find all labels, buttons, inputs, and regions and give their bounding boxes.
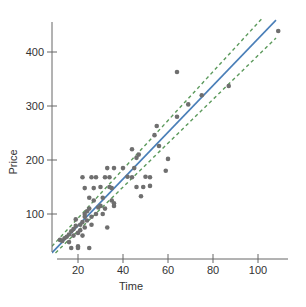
y-tick-label: 300: [26, 100, 44, 112]
data-point: [105, 166, 110, 171]
data-point: [76, 246, 81, 251]
data-point: [87, 196, 92, 201]
scatter-chart: 100200300400 20406080100 Time Price: [0, 0, 306, 307]
data-point: [103, 206, 108, 211]
x-axis-title: Time: [119, 280, 143, 292]
data-point: [121, 166, 126, 171]
data-point: [78, 228, 83, 233]
data-point: [186, 102, 191, 107]
data-point: [67, 240, 72, 245]
data-point: [130, 147, 135, 152]
data-points: [58, 29, 281, 251]
data-point: [141, 185, 146, 190]
data-point: [89, 214, 94, 219]
data-point: [152, 133, 157, 138]
data-point: [112, 166, 117, 171]
data-point: [107, 185, 112, 190]
data-point: [166, 157, 171, 162]
data-point: [107, 175, 112, 180]
data-point: [276, 29, 281, 34]
x-tick-label: 40: [117, 264, 129, 276]
x-tick-label: 20: [72, 264, 84, 276]
data-point: [105, 225, 110, 230]
data-point: [148, 175, 153, 180]
data-point: [103, 175, 108, 180]
data-point: [91, 186, 96, 191]
x-tick-label: 80: [207, 264, 219, 276]
data-point: [69, 246, 74, 251]
data-point: [85, 218, 90, 223]
data-point: [80, 233, 85, 238]
data-point: [82, 225, 87, 230]
data-point: [163, 169, 168, 174]
data-point: [80, 175, 85, 180]
data-point: [96, 205, 101, 210]
data-point: [91, 198, 96, 203]
data-point: [226, 84, 231, 89]
data-point: [73, 224, 78, 229]
data-point: [82, 212, 87, 217]
data-point: [125, 174, 130, 179]
x-axis-ticks: 20406080100: [72, 254, 267, 276]
y-tick-label: 400: [26, 46, 44, 58]
data-point: [80, 220, 85, 225]
data-point: [132, 166, 137, 171]
y-tick-label: 100: [26, 208, 44, 220]
data-point: [89, 223, 94, 228]
x-tick-label: 60: [162, 264, 174, 276]
data-point: [199, 93, 204, 98]
data-point: [139, 194, 144, 199]
data-point: [87, 246, 92, 251]
data-point: [82, 186, 87, 191]
data-point: [94, 175, 99, 180]
data-point: [71, 233, 76, 238]
data-point: [112, 204, 117, 209]
data-point: [100, 212, 105, 217]
data-point: [175, 70, 180, 75]
data-point: [134, 185, 139, 190]
y-tick-label: 200: [26, 154, 44, 166]
data-point: [98, 185, 103, 190]
x-tick-label: 100: [249, 264, 267, 276]
y-axis-title: Price: [7, 149, 19, 174]
data-point: [89, 175, 94, 180]
data-point: [175, 115, 180, 120]
data-point: [143, 174, 148, 179]
data-point: [87, 206, 92, 211]
data-point: [100, 196, 105, 201]
data-point: [157, 144, 162, 149]
data-point: [136, 152, 141, 157]
data-point: [73, 217, 78, 222]
data-point: [94, 212, 99, 217]
data-point: [148, 184, 153, 189]
data-point: [154, 124, 159, 129]
data-point: [130, 175, 135, 180]
